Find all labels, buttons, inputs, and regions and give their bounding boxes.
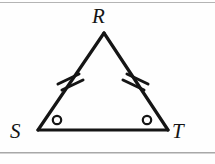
vertex-label-T: T	[172, 121, 184, 142]
congruent-base-angle-circle	[53, 116, 61, 124]
segment-SR	[38, 33, 104, 130]
segment-RT	[104, 33, 168, 130]
congruent-base-angle-circle	[143, 116, 151, 124]
vertex-label-S: S	[10, 121, 21, 142]
geometry-figure-canvas: R S T	[0, 0, 215, 164]
vertex-label-R: R	[92, 6, 105, 27]
